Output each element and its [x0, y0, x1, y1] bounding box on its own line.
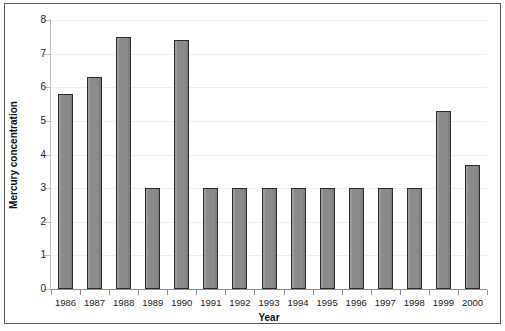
- gridline: [51, 20, 487, 21]
- x-axis-tick-label: 2000: [452, 298, 492, 308]
- y-axis-tick-label: 4: [40, 150, 46, 160]
- bar-fill: [88, 78, 101, 288]
- x-axis-tick: [458, 290, 459, 295]
- chart-canvas: Mercury concentration 012345678198619871…: [0, 0, 505, 331]
- x-axis-tick: [254, 290, 255, 295]
- x-axis-tick: [313, 290, 314, 295]
- bar: [174, 40, 189, 289]
- y-axis-title-text: Mercury concentration: [9, 101, 19, 209]
- bar-fill: [175, 41, 188, 288]
- y-axis-tick-label: 8: [40, 15, 46, 25]
- x-axis-tick: [284, 290, 285, 295]
- x-axis-tick: [429, 290, 430, 295]
- bar: [203, 188, 218, 289]
- bar: [291, 188, 306, 289]
- y-axis-tick-label: 2: [40, 217, 46, 227]
- bar-fill: [408, 189, 421, 288]
- bar-fill: [379, 189, 392, 288]
- bar-fill: [233, 189, 246, 288]
- x-axis-tick: [80, 290, 81, 295]
- bar-fill: [59, 95, 72, 288]
- chart-figure: Mercury concentration 012345678198619871…: [0, 0, 505, 331]
- y-axis-tick-label: 6: [40, 82, 46, 92]
- bar-fill: [437, 112, 450, 288]
- x-axis-tick: [51, 290, 52, 295]
- x-axis-tick: [400, 290, 401, 295]
- x-axis-tick: [196, 290, 197, 295]
- x-axis-tick: [342, 290, 343, 295]
- bar: [320, 188, 335, 289]
- bar: [349, 188, 364, 289]
- y-axis-tick-label: 0: [40, 284, 46, 294]
- bar: [145, 188, 160, 289]
- x-axis-line: [50, 289, 487, 290]
- x-axis-tick: [138, 290, 139, 295]
- bar: [465, 165, 480, 289]
- y-axis-tick-label: 3: [40, 183, 46, 193]
- x-axis-title: Year: [51, 313, 487, 323]
- y-axis-tick-label: 1: [40, 250, 46, 260]
- bar: [116, 37, 131, 289]
- bar-fill: [350, 189, 363, 288]
- bar-fill: [117, 38, 130, 288]
- bar: [378, 188, 393, 289]
- x-axis-tick: [487, 290, 488, 295]
- y-axis-title: Mercury concentration: [7, 20, 21, 289]
- bar: [232, 188, 247, 289]
- bar-fill: [466, 166, 479, 288]
- x-axis-tick: [167, 290, 168, 295]
- bar-fill: [204, 189, 217, 288]
- x-axis-tick: [371, 290, 372, 295]
- bar: [407, 188, 422, 289]
- bar-fill: [146, 189, 159, 288]
- x-axis-tick: [109, 290, 110, 295]
- y-axis-tick-label: 7: [40, 49, 46, 59]
- bar: [87, 77, 102, 289]
- bar: [58, 94, 73, 289]
- bar-fill: [321, 189, 334, 288]
- x-axis-tick: [225, 290, 226, 295]
- bar: [262, 188, 277, 289]
- bar-fill: [263, 189, 276, 288]
- y-axis-tick-label: 5: [40, 116, 46, 126]
- bar: [436, 111, 451, 289]
- bar-fill: [292, 189, 305, 288]
